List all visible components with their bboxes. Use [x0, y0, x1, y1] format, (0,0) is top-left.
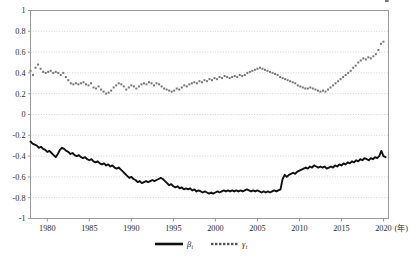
- gamma-data-point: [226, 76, 228, 78]
- gamma-data-point: [183, 84, 185, 86]
- gamma-data-point: [266, 70, 268, 72]
- gamma-data-point: [108, 92, 110, 94]
- gamma-data-point: [314, 89, 316, 91]
- gamma-data-point: [229, 77, 231, 79]
- gridlines-group: [31, 31, 389, 218]
- gamma-data-point: [244, 74, 246, 76]
- gamma-data-point: [87, 84, 89, 86]
- gamma-data-point: [256, 68, 258, 70]
- gamma-data-point: [118, 82, 120, 84]
- gamma-data-point: [166, 89, 168, 91]
- gamma-data-point: [330, 86, 332, 88]
- y-axis-tick-label: 1: [21, 6, 25, 15]
- gamma-data-point: [158, 83, 160, 85]
- gamma-data-point: [332, 84, 334, 86]
- gamma-data-point: [113, 86, 115, 88]
- gamma-data-point: [156, 82, 158, 84]
- gamma-data-point: [67, 79, 69, 81]
- gamma-data-point: [105, 93, 107, 95]
- x-axis-tick-label: 1995: [165, 224, 181, 233]
- gamma-data-point: [249, 71, 251, 73]
- gamma-data-point: [309, 86, 311, 88]
- gamma-data-point: [277, 74, 279, 76]
- gamma-data-point: [138, 85, 140, 87]
- gamma-data-point: [355, 65, 357, 67]
- gamma-data-point: [254, 69, 256, 71]
- gamma-data-point: [70, 82, 72, 84]
- gamma-data-point: [55, 71, 57, 73]
- gamma-data-point: [264, 69, 266, 71]
- gamma-data-point: [231, 76, 233, 78]
- gamma-data-point: [299, 85, 301, 87]
- gamma-data-point: [216, 78, 218, 80]
- gamma-data-point: [282, 77, 284, 79]
- gamma-data-point: [37, 64, 39, 66]
- gamma-data-point: [110, 90, 112, 92]
- gamma-data-point: [203, 79, 205, 81]
- x-axis-tick-label: 1990: [123, 224, 139, 233]
- gamma-series-layer: [30, 0, 389, 95]
- gamma-data-point: [40, 68, 42, 70]
- gamma-data-point: [98, 85, 100, 87]
- gamma-data-point: [345, 74, 347, 76]
- gamma-data-point: [60, 74, 62, 76]
- gamma-data-point: [120, 83, 122, 85]
- gamma-data-point: [103, 91, 105, 93]
- legend-label: βt: [186, 240, 194, 250]
- legend-marker-gamma: [227, 243, 229, 245]
- y-axis-tick-label: -1: [19, 214, 26, 223]
- gamma-data-point: [214, 77, 216, 79]
- gamma-data-point: [93, 86, 95, 88]
- time-series-chart: 10.80.60.40.20-0.2-0.4-0.6-0.8-1 1980198…: [0, 0, 411, 256]
- gamma-data-point: [115, 84, 117, 86]
- gamma-data-point: [45, 72, 47, 74]
- gamma-data-point: [181, 86, 183, 88]
- gamma-data-point: [377, 49, 379, 51]
- x-axis-tick-label: 2010: [291, 224, 307, 233]
- x-axis-ticks-group: 198019851990199520002005201020152020(年): [39, 219, 408, 233]
- gamma-data-point: [90, 82, 92, 84]
- y-axis-tick-label: 0: [21, 110, 25, 119]
- y-axis-tick-label: 0.4: [15, 69, 25, 78]
- gamma-data-point: [219, 76, 221, 78]
- gamma-data-point: [171, 91, 173, 93]
- gamma-data-point: [173, 90, 175, 92]
- x-axis-tick-label: 2020: [375, 224, 391, 233]
- gamma-data-point: [30, 70, 32, 72]
- legend-marker-gamma: [223, 243, 225, 245]
- x-axis-tick-label: 2005: [249, 224, 265, 233]
- gamma-data-point: [178, 89, 180, 91]
- chart-figure: 10.80.60.40.20-0.2-0.4-0.6-0.8-1 1980198…: [0, 0, 411, 256]
- gamma-data-point: [188, 83, 190, 85]
- gamma-data-point: [133, 85, 135, 87]
- gamma-data-point: [151, 82, 153, 84]
- gamma-data-point: [289, 80, 291, 82]
- gamma-data-point: [145, 83, 147, 85]
- gamma-data-point: [274, 73, 276, 75]
- x-axis-tick-label: 1980: [39, 224, 55, 233]
- gamma-data-point: [284, 78, 286, 80]
- gamma-data-point: [148, 81, 150, 83]
- gamma-data-point: [239, 74, 241, 76]
- gamma-data-point: [32, 74, 34, 76]
- gamma-data-point: [153, 84, 155, 86]
- gamma-data-point: [201, 81, 203, 83]
- gamma-data-point: [246, 72, 248, 74]
- gamma-data-point: [365, 58, 367, 60]
- gamma-data-point: [50, 70, 52, 72]
- gamma-data-point: [125, 89, 127, 91]
- gamma-data-point: [163, 88, 165, 90]
- y-axis-tick-label: 0.6: [15, 48, 25, 57]
- gamma-data-point: [52, 72, 54, 74]
- gamma-data-point: [327, 89, 329, 91]
- gamma-data-point: [72, 83, 74, 85]
- gamma-data-point: [82, 81, 84, 83]
- legend-marker-gamma: [211, 243, 213, 245]
- gamma-data-point: [372, 55, 374, 57]
- y-axis-tick-label: 0.8: [15, 27, 25, 36]
- gamma-data-point: [367, 56, 369, 58]
- gamma-data-point: [123, 85, 125, 87]
- gamma-data-point: [335, 82, 337, 84]
- gamma-data-point: [375, 53, 377, 55]
- gamma-data-point: [168, 90, 170, 92]
